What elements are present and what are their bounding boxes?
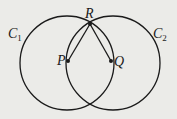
label-q: Q	[114, 55, 124, 69]
label-r: R	[85, 7, 94, 21]
point-q	[109, 59, 113, 63]
geometry-diagram: C1 C2 P Q R	[0, 0, 177, 119]
point-r	[88, 22, 92, 26]
point-p	[66, 59, 70, 63]
label-p: P	[57, 54, 66, 68]
circle-c2	[66, 16, 160, 110]
circle-c1	[20, 16, 114, 110]
label-c2: C2	[153, 27, 167, 43]
label-c1: C1	[8, 27, 22, 43]
